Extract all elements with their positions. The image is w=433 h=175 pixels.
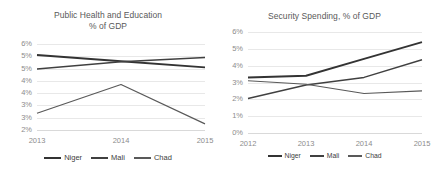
y-axis-tick-label: 6% <box>232 28 243 36</box>
x-axis-tick-label: 2014 <box>356 140 373 148</box>
legend-item-chad-left[interactable]: Chad <box>134 154 172 162</box>
legend-swatch-niger-left <box>44 157 61 159</box>
x-axis-tick-label: 2012 <box>240 140 257 148</box>
legend-item-chad-right[interactable]: Chad <box>348 152 381 160</box>
legend-item-niger-left[interactable]: Niger <box>44 154 82 162</box>
series-line-mali <box>37 58 205 70</box>
legend-swatch-chad-right <box>348 155 362 157</box>
legend-left: Niger Mali Chad <box>0 154 216 162</box>
series-line-chad <box>248 81 422 94</box>
y-axis-tick-label: 6% <box>21 40 32 48</box>
x-axis-tick-label: 2013 <box>298 140 315 148</box>
y-axis-tick-label: 4% <box>21 89 32 97</box>
legend-label-niger-right: Niger <box>285 152 301 160</box>
legend-swatch-mali-left <box>91 157 108 159</box>
dual-chart-figure: Public Health and Education % of GDP 6%5… <box>0 0 433 175</box>
x-axis-tick-label: 2015 <box>197 137 214 145</box>
legend-item-niger-right[interactable]: Niger <box>268 152 301 160</box>
series-lines-right <box>248 32 422 133</box>
y-axis-tick-label: 3% <box>21 101 32 109</box>
y-axis-tick-label: 5% <box>21 52 32 60</box>
legend-item-mali-right[interactable]: Mali <box>310 152 339 160</box>
y-axis-tick-label: 5% <box>21 65 32 73</box>
chart-title-left-line2: % of GDP <box>0 21 216 32</box>
series-lines-left <box>37 44 205 130</box>
legend-label-chad-right: Chad <box>365 152 381 160</box>
legend-label-mali-left: Mali <box>111 154 125 162</box>
chart-panel-public-health-education: Public Health and Education % of GDP 6%5… <box>0 0 216 175</box>
y-axis-tick-label: 4% <box>232 62 243 70</box>
legend-item-mali-left[interactable]: Mali <box>91 154 125 162</box>
series-line-chad <box>37 85 205 124</box>
legend-swatch-chad-left <box>134 157 151 159</box>
chart-panel-security-spending: Security Spending, % of GDP 6%5%4%3%2%1%… <box>216 0 433 175</box>
chart-title-left-line1: Public Health and Education <box>54 10 162 20</box>
y-axis-tick-label: 1% <box>232 112 243 120</box>
y-axis-tick-label: 4% <box>21 77 32 85</box>
legend-label-chad-left: Chad <box>154 154 172 162</box>
y-axis-tick-label: 2% <box>232 95 243 103</box>
legend-right: Niger Mali Chad <box>216 152 433 160</box>
y-axis-tick-label: 2% <box>21 126 32 134</box>
x-axis-tick-label: 2014 <box>113 137 130 145</box>
y-axis-tick-label: 3% <box>232 79 243 87</box>
legend-label-niger-left: Niger <box>64 154 82 162</box>
plot-area-left: 6%5%5%4%4%3%3%2%201320142015 <box>37 44 205 130</box>
plot-area-right: 6%5%4%3%2%1%0%2012201320142015 <box>248 32 422 133</box>
legend-swatch-niger-right <box>268 155 282 157</box>
legend-label-mali-right: Mali <box>327 152 339 160</box>
gridline <box>248 133 422 134</box>
gridline <box>37 130 205 131</box>
chart-title-left: Public Health and Education % of GDP <box>0 10 216 32</box>
series-line-mali <box>248 60 422 99</box>
x-axis-tick-label: 2013 <box>29 137 46 145</box>
legend-swatch-mali-right <box>310 155 324 157</box>
y-axis-tick-label: 0% <box>232 129 243 137</box>
chart-title-right-line1: Security Spending, % of GDP <box>268 11 381 21</box>
y-axis-tick-label: 5% <box>232 45 243 53</box>
y-axis-tick-label: 3% <box>21 114 32 122</box>
chart-title-right: Security Spending, % of GDP <box>216 11 433 22</box>
series-line-niger <box>248 42 422 77</box>
x-axis-tick-label: 2015 <box>414 140 431 148</box>
